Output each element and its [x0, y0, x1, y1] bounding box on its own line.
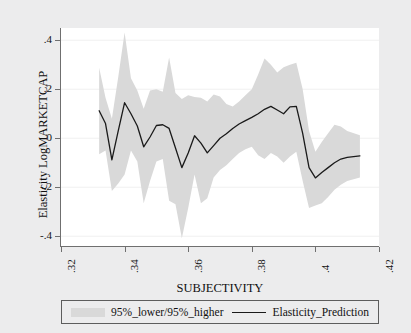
y-axis-title: Elasticity LogMARKETCAP [36, 40, 51, 250]
x-axis-title: SUBJECTIVITY [61, 281, 379, 296]
legend-line-label: Elasticity_Prediction [272, 306, 368, 318]
x-tick-label: .42 [384, 259, 395, 273]
y-tick-mark [55, 89, 60, 90]
plot-svg [61, 28, 379, 246]
y-tick-mark [55, 138, 60, 139]
legend-line-swatch-icon [232, 312, 266, 313]
y-tick-mark [55, 236, 60, 237]
confidence-band-95 [99, 32, 360, 238]
y-tick-mark [55, 40, 60, 41]
x-tick-label: .38 [256, 259, 267, 273]
x-tick-mark [188, 247, 189, 252]
legend-band-label: 95%_lower/95%_higher [111, 306, 223, 318]
x-tick-label: .32 [66, 259, 77, 273]
x-tick-label: .36 [193, 259, 204, 273]
plot-area [61, 28, 379, 246]
x-tick-mark [252, 247, 253, 252]
x-tick-mark [125, 247, 126, 252]
x-tick-mark [61, 247, 62, 252]
legend-band-swatch-icon [71, 308, 105, 317]
x-tick-label: .34 [129, 259, 140, 273]
y-axis-line [60, 28, 61, 247]
x-tick-mark [379, 247, 380, 252]
legend-entry-line: Elasticity_Prediction [232, 306, 368, 318]
x-axis-line [60, 246, 379, 247]
chart-figure: .4.20-.2-.4 .32.34.36.38.4.42 Elasticity… [0, 0, 411, 333]
chart-legend: 95%_lower/95%_higher Elasticity_Predicti… [61, 300, 379, 324]
y-tick-mark [55, 187, 60, 188]
legend-entry-band: 95%_lower/95%_higher [71, 306, 223, 318]
x-tick-mark [315, 247, 316, 252]
x-tick-label: .4 [320, 265, 331, 273]
